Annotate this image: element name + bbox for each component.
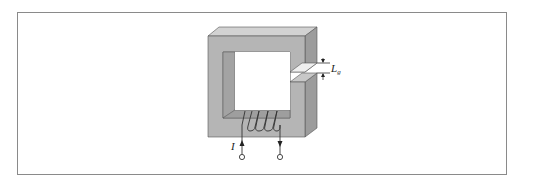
core-right-face-lower: [305, 73, 317, 137]
current-arrow-down-icon: [278, 141, 283, 147]
current-label: I: [230, 140, 236, 152]
window-opening: [235, 52, 290, 110]
current-arrow-up-icon: [240, 140, 245, 146]
gap-arrow-down-icon: [321, 59, 325, 63]
terminal-right: [277, 154, 282, 159]
window-left-wall: [223, 52, 235, 118]
window-floor: [223, 110, 290, 118]
gap-label-main: L: [330, 62, 337, 74]
gap-label-sub: g: [337, 68, 341, 76]
core-top-face: [208, 27, 317, 36]
gap-arrow-up-icon: [321, 73, 325, 77]
magnetic-core-diagram: I Lg: [0, 0, 546, 187]
gap-length-label: Lg: [330, 62, 341, 76]
terminal-left: [239, 154, 244, 159]
